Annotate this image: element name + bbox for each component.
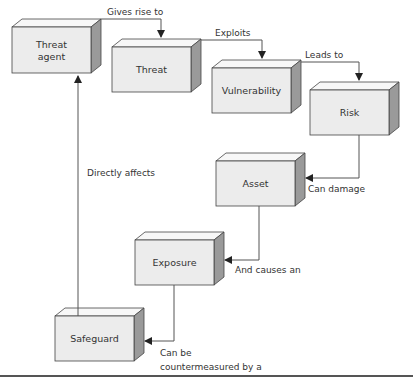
- connector-arrow: [301, 62, 359, 80]
- edge-label: countermeasured by a: [160, 362, 262, 372]
- node-label: Exposure: [153, 257, 197, 268]
- threat-risk-diagram: ThreatagentThreatVulnerabilityRiskAssetE…: [0, 0, 413, 385]
- edge-exploits: Exploits: [201, 28, 262, 58]
- node-exposure: Exposure: [135, 232, 224, 285]
- edge-label: Directly affects: [87, 168, 155, 178]
- node-label: Threat: [135, 64, 167, 75]
- box-side-face: [191, 39, 201, 92]
- node-label: Threat: [35, 39, 67, 50]
- edge-label: Gives rise to: [107, 7, 164, 17]
- node-label: Vulnerability: [222, 85, 282, 96]
- node-threat-agent: Threatagent: [12, 19, 101, 73]
- box-side-face: [91, 19, 101, 73]
- box-top-face: [12, 19, 101, 27]
- edge-gives-rise-to: Gives rise to: [101, 7, 164, 37]
- edge-label: And causes an: [235, 265, 301, 275]
- node-asset: Asset: [216, 153, 305, 206]
- connector-arrow: [225, 206, 259, 260]
- box-side-face: [291, 60, 301, 113]
- edge-can-damage: Can damage: [306, 135, 366, 194]
- node-label: agent: [38, 51, 66, 62]
- box-side-face: [214, 232, 224, 285]
- node-label: Risk: [340, 107, 360, 118]
- edge-label: Leads to: [305, 50, 344, 60]
- box-side-face: [389, 82, 399, 135]
- node-safeguard: Safeguard: [55, 308, 144, 361]
- connector-arrow: [306, 135, 359, 178]
- box-side-face: [295, 153, 305, 206]
- box-side-face: [134, 308, 144, 361]
- node-label: Asset: [243, 178, 269, 189]
- node-risk: Risk: [310, 82, 399, 135]
- box-top-face: [216, 153, 305, 161]
- box-top-face: [310, 82, 399, 90]
- connector-arrow: [101, 19, 161, 37]
- edge-can-be-countermeasured: Can becountermeasured by a: [145, 285, 262, 372]
- edge-leads-to: Leads to: [301, 50, 359, 80]
- box-top-face: [135, 232, 224, 240]
- node-vulnerability: Vulnerability: [212, 60, 301, 113]
- node-label: Safeguard: [70, 333, 119, 344]
- bottom-rule: [0, 375, 413, 377]
- box-top-face: [212, 60, 301, 68]
- edge-label: Can be: [160, 348, 192, 358]
- edge-and-causes-an: And causes an: [225, 206, 301, 275]
- box-top-face: [55, 308, 144, 316]
- node-threat: Threat: [112, 39, 201, 92]
- connector-arrow: [145, 285, 174, 341]
- edge-label: Exploits: [215, 28, 251, 38]
- connector-arrow: [201, 40, 262, 58]
- edge-label: Can damage: [308, 184, 366, 194]
- box-top-face: [112, 39, 201, 47]
